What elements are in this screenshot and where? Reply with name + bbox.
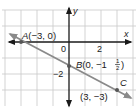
point-b-label: B(0, −1 bbox=[76, 59, 107, 70]
point-b-fraction-den: 2 bbox=[116, 65, 120, 71]
point-c bbox=[115, 88, 119, 92]
x-tick-label: 2 bbox=[97, 44, 102, 54]
point-c-label: C bbox=[120, 77, 127, 88]
point-c-coords: (3, −3) bbox=[80, 91, 108, 102]
x-axis-label: x bbox=[123, 29, 129, 39]
point-b-close-paren: ) bbox=[121, 59, 124, 70]
coordinate-plane: x y 0 2 −2 A(−3, 0) B(0, −1 1 2 ) C (3, … bbox=[0, 0, 140, 110]
point-b bbox=[67, 64, 71, 68]
origin-label: 0 bbox=[61, 44, 66, 54]
point-a-label: A(−3, 0) bbox=[21, 30, 56, 41]
point-b-fraction-num: 1 bbox=[116, 58, 120, 64]
y-axis-label: y bbox=[72, 6, 78, 16]
y-tick-label: −2 bbox=[53, 69, 63, 79]
